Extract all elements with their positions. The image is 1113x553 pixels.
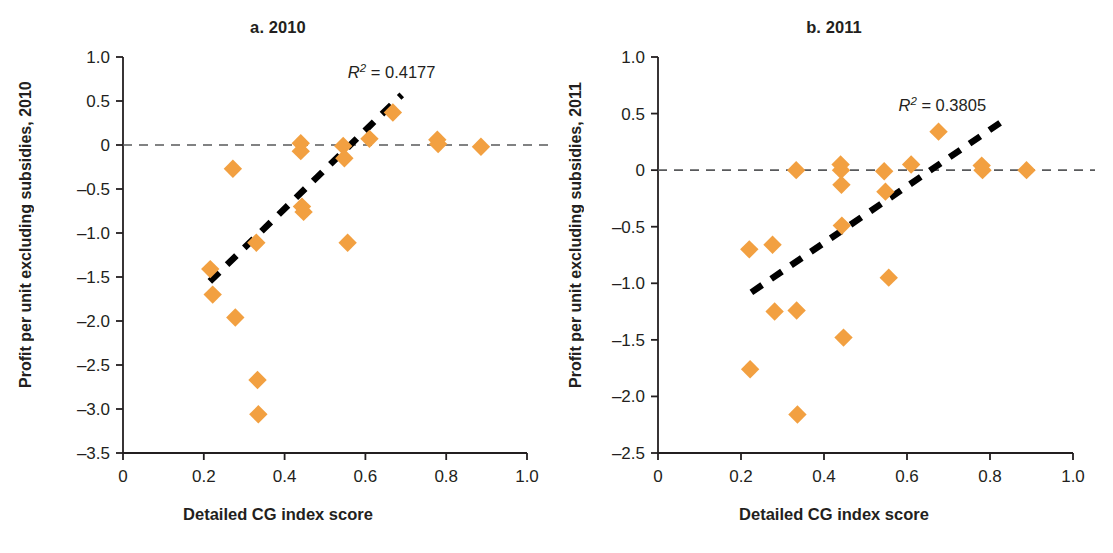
- x-tick-label: 0.2: [192, 467, 216, 486]
- x-axis-ticks: 00.20.40.60.81.0: [118, 453, 539, 486]
- data-point-marker: [832, 176, 850, 194]
- data-point-marker: [763, 236, 781, 254]
- data-points: [201, 103, 490, 423]
- panel-a-x-axis-label: Detailed CG index score: [0, 505, 556, 524]
- y-axis-ticks: 1.00.50–0.5–1.0–1.5–2.0–2.5–3.0–3.5: [77, 48, 123, 463]
- data-point-marker: [929, 122, 947, 140]
- x-tick-label: 0.2: [729, 467, 753, 486]
- data-point-marker: [226, 308, 244, 326]
- x-tick-label: 0.6: [354, 467, 378, 486]
- y-tick-label: –1.5: [612, 331, 645, 350]
- x-tick-label: 0: [118, 467, 127, 486]
- y-tick-label: –2.0: [77, 312, 110, 331]
- y-tick-label: –1.0: [612, 274, 645, 293]
- y-tick-label: –2.5: [612, 444, 645, 463]
- y-tick-label: 0: [636, 161, 645, 180]
- x-tick-label: 1.0: [1061, 467, 1085, 486]
- x-tick-label: 0.8: [978, 467, 1002, 486]
- panel-b-plot-area: 1.00.50–0.5–1.0–1.5–2.0–2.500.20.40.60.8…: [658, 57, 1073, 453]
- y-tick-label: 0: [101, 136, 110, 155]
- data-point-marker: [472, 138, 490, 156]
- x-tick-label: 0.4: [812, 467, 836, 486]
- data-point-marker: [249, 405, 267, 423]
- y-tick-label: –2.0: [612, 387, 645, 406]
- y-tick-label: 1.0: [621, 48, 645, 67]
- data-point-marker: [834, 328, 852, 346]
- data-point-marker: [787, 301, 805, 319]
- y-tick-label: –3.5: [77, 444, 110, 463]
- data-point-marker: [875, 162, 893, 180]
- trend-line: [210, 95, 402, 282]
- data-point-marker: [247, 233, 265, 251]
- data-point-marker: [203, 285, 221, 303]
- data-point-marker: [248, 371, 266, 389]
- axes: [123, 57, 527, 453]
- figure-two-scatter-panels: a. 2010 Profit per unit excluding subsid…: [0, 0, 1113, 553]
- y-axis-ticks: 1.00.50–0.5–1.0–1.5–2.0–2.5: [612, 48, 658, 463]
- x-tick-label: 0: [653, 467, 662, 486]
- data-point-marker: [741, 360, 759, 378]
- r-squared-annotation: R2 = 0.3805: [898, 95, 986, 114]
- data-points: [740, 122, 1036, 423]
- data-point-marker: [740, 240, 758, 258]
- x-tick-label: 0.8: [434, 467, 458, 486]
- r-squared-annotation: R2 = 0.4177: [348, 62, 436, 81]
- x-tick-label: 0.6: [895, 467, 919, 486]
- x-axis-ticks: 00.20.40.60.81.0: [653, 453, 1085, 486]
- y-tick-label: –1.0: [77, 224, 110, 243]
- y-tick-label: –1.5: [77, 268, 110, 287]
- y-tick-label: –0.5: [612, 218, 645, 237]
- panel-a-chart-svg: 1.00.50–0.5–1.0–1.5–2.0–2.5–3.0–3.500.20…: [83, 17, 567, 493]
- panel-b-x-axis-label: Detailed CG index score: [556, 505, 1112, 524]
- svg-text:R2 = 0.3805: R2 = 0.3805: [898, 95, 986, 114]
- data-point-marker: [788, 405, 806, 423]
- svg-text:R2 = 0.4177: R2 = 0.4177: [348, 62, 436, 81]
- axes: [658, 57, 1073, 453]
- panel-a-plot-area: 1.00.50–0.5–1.0–1.5–2.0–2.5–3.0–3.500.20…: [123, 57, 527, 453]
- panel-b-y-axis-label: Profit per unit excluding subsidies, 201…: [564, 0, 588, 470]
- trend-line: [751, 123, 1000, 293]
- y-tick-label: 0.5: [86, 92, 110, 111]
- data-point-marker: [765, 302, 783, 320]
- panel-b-chart-svg: 1.00.50–0.5–1.0–1.5–2.0–2.500.20.40.60.8…: [618, 17, 1113, 493]
- panel-b-2011: b. 2011 Profit per unit excluding subsid…: [556, 0, 1112, 553]
- panel-a-y-axis-label: Profit per unit excluding subsidies, 201…: [14, 0, 38, 470]
- data-point-marker: [224, 160, 242, 178]
- y-tick-label: –2.5: [77, 356, 110, 375]
- panel-a-2010: a. 2010 Profit per unit excluding subsid…: [0, 0, 556, 553]
- y-tick-label: –3.0: [77, 400, 110, 419]
- y-tick-label: 1.0: [86, 48, 110, 67]
- y-tick-label: 0.5: [621, 105, 645, 124]
- y-tick-label: –0.5: [77, 180, 110, 199]
- data-point-marker: [335, 149, 353, 167]
- x-tick-label: 1.0: [515, 467, 539, 486]
- data-point-marker: [787, 161, 805, 179]
- data-point-marker: [880, 268, 898, 286]
- data-point-marker: [338, 233, 356, 251]
- data-point-marker: [1017, 161, 1035, 179]
- x-tick-label: 0.4: [273, 467, 297, 486]
